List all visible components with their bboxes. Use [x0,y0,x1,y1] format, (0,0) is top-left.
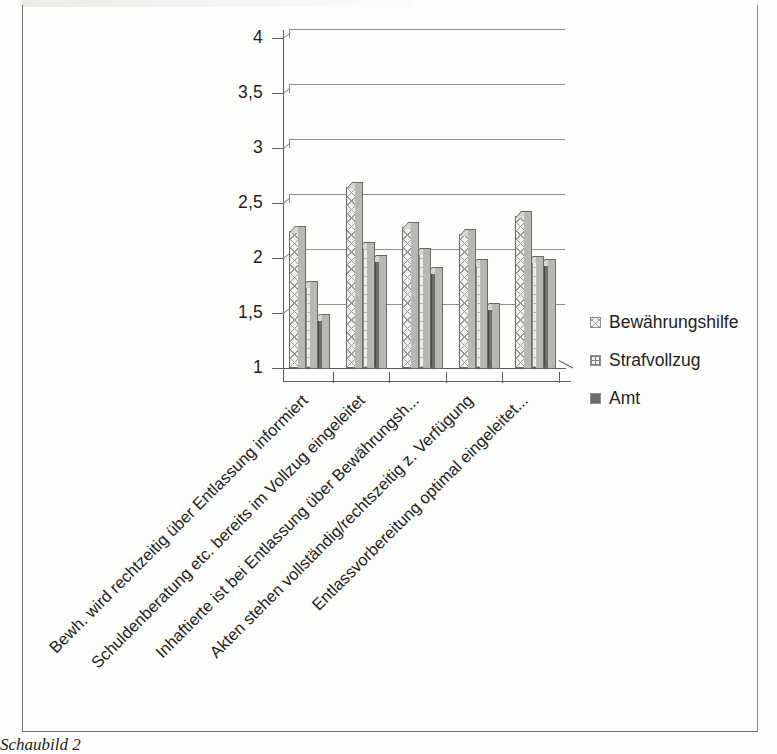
legend-swatch-icon [590,317,601,328]
legend-item-label: Strafvollzug [609,350,700,371]
x-axis-category-label: Bewh. wird rechtzeitig über Entlassung i… [45,391,311,657]
legend-item-label: Bewährungshilfe [609,312,738,333]
legend-item-label: Amt [609,388,640,409]
figure-page: 11,522,533,54 Bewh. wird rechtzeitig übe… [0,0,777,754]
legend-item-strafvollzug: Strafvollzug [590,350,770,371]
legend-swatch-icon [590,393,601,404]
figure-caption: Schaubild 2 [0,735,81,754]
legend-swatch-icon [590,355,601,366]
legend-item-bewaehrungshilfe: Bewährungshilfe [590,312,770,333]
legend-item-amt: Amt [590,388,770,409]
chart-legend: Bewährungshilfe Strafvollzug Amt [590,312,770,426]
